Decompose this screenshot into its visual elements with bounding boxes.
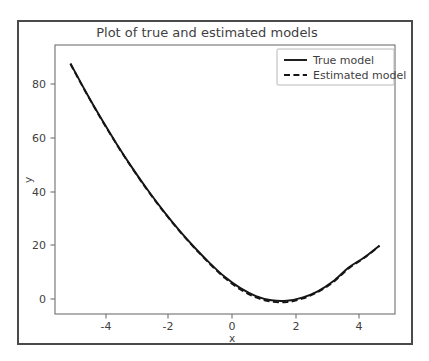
series-line-estimated-model (70, 64, 379, 302)
legend-label-true-model: True model (312, 54, 374, 67)
x-tick-label-neg4: -4 (101, 320, 112, 333)
x-tick-label-neg2: -2 (163, 320, 174, 333)
x-axis-label: x (229, 332, 235, 343)
scan-artifact-speck (47, 3, 51, 8)
y-axis-ticks (51, 84, 56, 299)
y-tick-label-0: 0 (39, 293, 46, 306)
y-tick-label-80: 80 (32, 78, 46, 91)
y-axis-tick-labels: 80 60 40 20 0 (32, 78, 46, 306)
figure-frame: Plot of true and estimated models 80 60 … (17, 20, 413, 345)
x-tick-label-2: 2 (293, 320, 300, 333)
legend-label-estimated-model: Estimated model (313, 69, 406, 82)
x-axis-ticks (106, 314, 359, 319)
chart-canvas: Plot of true and estimated models 80 60 … (19, 22, 411, 343)
x-tick-label-4: 4 (356, 320, 363, 333)
y-tick-label-20: 20 (32, 239, 46, 252)
chart-title: Plot of true and estimated models (96, 25, 318, 40)
series-line-true-model (70, 63, 379, 301)
legend[interactable]: True model Estimated model (277, 49, 406, 85)
y-tick-label-60: 60 (32, 132, 46, 145)
y-axis-label: y (22, 177, 34, 183)
y-tick-label-40: 40 (32, 186, 46, 199)
